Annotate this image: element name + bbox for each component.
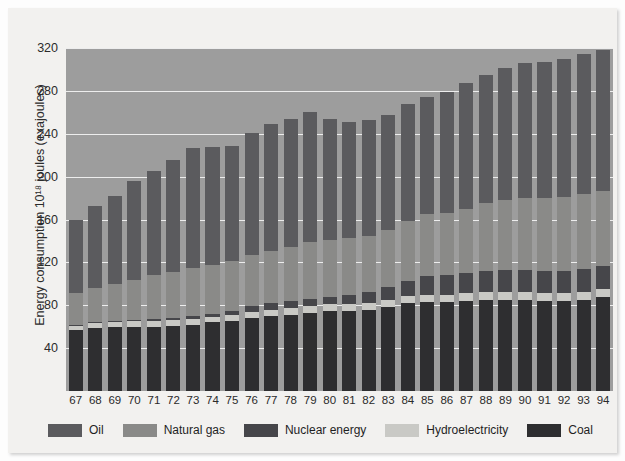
stacked-bar[interactable] <box>596 50 610 391</box>
bar-segment-hydroelectricity[interactable] <box>596 289 610 297</box>
bar-segment-hydroelectricity[interactable] <box>459 293 473 301</box>
bar-segment-natural-gas[interactable] <box>147 275 161 319</box>
stacked-bar[interactable] <box>401 104 415 391</box>
bar-segment-oil[interactable] <box>596 50 610 190</box>
bar-segment-natural-gas[interactable] <box>186 268 200 316</box>
bar-segment-oil[interactable] <box>518 63 532 198</box>
stacked-bar[interactable] <box>323 119 337 391</box>
bar-segment-oil[interactable] <box>381 115 395 231</box>
bar-segment-nuclear-energy[interactable] <box>284 301 298 309</box>
bar-segment-oil[interactable] <box>401 104 415 221</box>
stacked-bar[interactable] <box>303 112 317 391</box>
bar-column-88[interactable] <box>476 48 496 391</box>
bar-column-79[interactable] <box>300 48 320 391</box>
bar-segment-coal[interactable] <box>577 300 591 391</box>
stacked-bar[interactable] <box>479 75 493 391</box>
bar-segment-coal[interactable] <box>596 297 610 391</box>
bar-segment-nuclear-energy[interactable] <box>557 271 571 294</box>
bar-column-70[interactable] <box>125 48 145 391</box>
bar-column-74[interactable] <box>203 48 223 391</box>
stacked-bar[interactable] <box>557 59 571 391</box>
bar-segment-natural-gas[interactable] <box>362 236 376 293</box>
bar-segment-coal[interactable] <box>303 313 317 391</box>
bar-segment-oil[interactable] <box>323 119 337 240</box>
bar-segment-natural-gas[interactable] <box>323 240 337 297</box>
bar-segment-coal[interactable] <box>205 322 219 391</box>
bar-segment-coal[interactable] <box>284 315 298 391</box>
bar-segment-oil[interactable] <box>147 171 161 275</box>
bar-segment-hydroelectricity[interactable] <box>537 293 551 301</box>
bar-column-80[interactable] <box>320 48 340 391</box>
bar-segment-coal[interactable] <box>537 301 551 391</box>
bar-segment-nuclear-energy[interactable] <box>381 287 395 300</box>
bar-segment-coal[interactable] <box>459 301 473 391</box>
bar-segment-oil[interactable] <box>69 220 83 294</box>
bar-segment-natural-gas[interactable] <box>381 230 395 287</box>
stacked-bar[interactable] <box>186 148 200 391</box>
bar-segment-oil[interactable] <box>88 206 102 289</box>
bar-segment-natural-gas[interactable] <box>518 198 532 270</box>
bar-segment-nuclear-energy[interactable] <box>596 266 610 290</box>
bar-segment-oil[interactable] <box>245 133 259 255</box>
stacked-bar[interactable] <box>362 120 376 391</box>
bar-segment-oil[interactable] <box>166 160 180 273</box>
bar-segment-oil[interactable] <box>498 68 512 200</box>
bar-segment-hydroelectricity[interactable] <box>479 292 493 300</box>
bar-segment-nuclear-energy[interactable] <box>518 270 532 293</box>
bar-segment-coal[interactable] <box>518 300 532 391</box>
bar-segment-oil[interactable] <box>557 59 571 197</box>
bar-segment-nuclear-energy[interactable] <box>362 292 376 303</box>
bar-column-68[interactable] <box>86 48 106 391</box>
bar-segment-natural-gas[interactable] <box>420 214 434 276</box>
bar-segment-coal[interactable] <box>323 311 337 391</box>
bar-segment-coal[interactable] <box>479 300 493 391</box>
bar-segment-oil[interactable] <box>479 75 493 204</box>
bar-segment-natural-gas[interactable] <box>401 221 415 281</box>
bar-segment-natural-gas[interactable] <box>284 247 298 301</box>
stacked-bar[interactable] <box>420 97 434 391</box>
bar-segment-natural-gas[interactable] <box>342 238 356 295</box>
bar-segment-nuclear-energy[interactable] <box>342 295 356 305</box>
bar-segment-oil[interactable] <box>205 147 219 265</box>
bar-segment-natural-gas[interactable] <box>596 191 610 266</box>
bar-segment-coal[interactable] <box>88 328 102 391</box>
bar-segment-natural-gas[interactable] <box>440 213 454 275</box>
bar-segment-oil[interactable] <box>420 97 434 214</box>
bar-segment-natural-gas[interactable] <box>303 242 317 299</box>
bar-segment-natural-gas[interactable] <box>537 198 551 271</box>
bar-segment-natural-gas[interactable] <box>577 194 591 269</box>
bar-segment-oil[interactable] <box>342 122 356 238</box>
bar-segment-coal[interactable] <box>342 311 356 391</box>
bar-segment-nuclear-energy[interactable] <box>323 297 337 305</box>
bar-segment-oil[interactable] <box>225 146 239 262</box>
bar-segment-oil[interactable] <box>459 83 473 208</box>
bar-segment-coal[interactable] <box>401 303 415 391</box>
bar-segment-coal[interactable] <box>186 325 200 391</box>
stacked-bar[interactable] <box>577 54 591 391</box>
legend-hydroelectricity[interactable]: Hydroelectricity <box>385 423 508 437</box>
stacked-bar[interactable] <box>264 124 278 391</box>
stacked-bar[interactable] <box>225 146 239 391</box>
bar-segment-coal[interactable] <box>225 321 239 391</box>
legend-coal[interactable]: Coal <box>527 423 593 437</box>
bar-segment-oil[interactable] <box>362 120 376 236</box>
stacked-bar[interactable] <box>147 171 161 391</box>
bar-segment-oil[interactable] <box>108 196 122 284</box>
stacked-bar[interactable] <box>127 181 141 391</box>
bar-segment-nuclear-energy[interactable] <box>459 273 473 293</box>
bar-column-69[interactable] <box>105 48 125 391</box>
stacked-bar[interactable] <box>537 62 551 391</box>
bar-column-91[interactable] <box>535 48 555 391</box>
bar-column-83[interactable] <box>379 48 399 391</box>
bar-segment-coal[interactable] <box>440 302 454 391</box>
bar-segment-nuclear-energy[interactable] <box>440 275 454 294</box>
bar-column-77[interactable] <box>261 48 281 391</box>
stacked-bar[interactable] <box>459 83 473 391</box>
bar-segment-natural-gas[interactable] <box>88 288 102 322</box>
bar-segment-natural-gas[interactable] <box>479 203 493 271</box>
bar-column-81[interactable] <box>339 48 359 391</box>
bar-segment-coal[interactable] <box>69 330 83 391</box>
bar-segment-nuclear-energy[interactable] <box>420 276 434 294</box>
bar-segment-oil[interactable] <box>577 54 591 193</box>
bar-segment-oil[interactable] <box>127 181 141 280</box>
